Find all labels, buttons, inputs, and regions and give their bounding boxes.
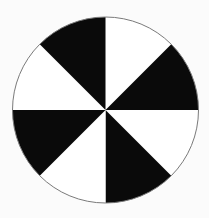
pinwheel-disc-figure (0, 0, 209, 218)
sector-group (13, 17, 199, 203)
figure-canvas (0, 0, 209, 218)
